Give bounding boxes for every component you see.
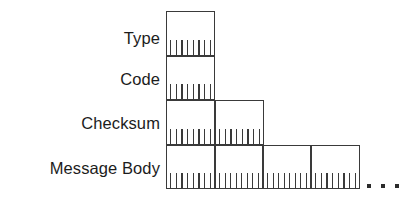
bit-tick-icon [273,173,274,188]
bit-tick-icon [170,84,171,99]
bit-tick-icon [198,84,199,99]
row-label-message-body: Message Body [50,160,160,177]
bit-tick-icon [349,173,350,188]
packet-cell [311,145,360,189]
ellipsis-dot [395,184,399,188]
bit-tick-icon [247,173,248,188]
bit-tick-icon [326,173,327,188]
bit-tick-icon [204,40,205,55]
bit-tick-icon [230,173,231,188]
bit-tick-icon [187,129,188,144]
bit-tick-icon [170,129,171,144]
bit-tick-marks [264,173,310,188]
bit-tick-icon [259,129,260,144]
bit-tick-icon [181,129,182,144]
bit-tick-icon [204,84,205,99]
ellipsis-dot [381,184,385,188]
packet-cell [166,145,215,189]
bit-tick-icon [315,173,316,188]
bit-tick-icon [289,173,290,188]
bit-tick-icon [219,173,220,188]
ellipsis-dot [367,184,371,188]
bit-tick-icon [198,40,199,55]
packet-cell [215,145,263,189]
bit-tick-icon [170,40,171,55]
continuation-ellipsis-icon [367,184,399,188]
row-label-code: Code [120,71,160,88]
bit-tick-icon [210,173,211,188]
packet-cell [166,100,215,145]
bit-tick-icon [193,40,194,55]
bit-tick-icon [225,129,226,144]
bit-tick-icon [230,129,231,144]
bit-tick-icon [210,40,211,55]
bit-tick-icon [198,173,199,188]
bit-tick-icon [219,129,220,144]
bit-tick-icon [198,129,199,144]
packet-cell [166,11,215,56]
bit-tick-icon [300,173,301,188]
bit-tick-icon [187,40,188,55]
bit-tick-icon [187,84,188,99]
packet-format-diagram: Type Code Checksum Message Body [0,0,409,201]
bit-tick-icon [247,129,248,144]
bit-tick-icon [236,173,237,188]
bit-tick-icon [267,173,268,188]
bit-tick-icon [306,173,307,188]
bit-tick-icon [284,173,285,188]
bit-tick-icon [355,173,356,188]
bit-tick-icon [193,84,194,99]
bit-tick-icon [204,173,205,188]
bit-tick-icon [170,173,171,188]
bit-tick-icon [253,129,254,144]
bit-tick-marks [167,129,214,144]
bit-tick-icon [295,173,296,188]
bit-tick-icon [332,173,333,188]
bit-tick-marks [167,40,214,55]
bit-tick-icon [338,173,339,188]
bit-tick-icon [321,173,322,188]
bit-tick-icon [225,173,226,188]
bit-tick-icon [343,173,344,188]
row-label-checksum: Checksum [81,115,160,132]
bit-tick-icon [181,40,182,55]
bit-tick-icon [252,173,253,188]
bit-tick-icon [176,84,177,99]
bit-tick-icon [181,173,182,188]
packet-cell [215,100,264,145]
bit-tick-icon [181,84,182,99]
bit-tick-marks [167,173,214,188]
bit-tick-icon [187,173,188,188]
bit-tick-marks [167,84,214,99]
packet-cell [263,145,311,189]
bit-tick-icon [193,129,194,144]
row-label-type: Type [124,30,160,47]
bit-tick-icon [204,129,205,144]
bit-tick-icon [278,173,279,188]
bit-tick-icon [242,129,243,144]
bit-tick-icon [210,84,211,99]
bit-tick-icon [176,173,177,188]
bit-tick-icon [236,129,237,144]
bit-tick-icon [176,40,177,55]
bit-tick-marks [312,173,359,188]
bit-tick-icon [210,129,211,144]
bit-tick-icon [176,129,177,144]
bit-tick-marks [216,173,262,188]
bit-tick-icon [193,173,194,188]
packet-cell [166,56,215,100]
bit-tick-icon [258,173,259,188]
bit-tick-marks [216,129,263,144]
bit-tick-icon [241,173,242,188]
